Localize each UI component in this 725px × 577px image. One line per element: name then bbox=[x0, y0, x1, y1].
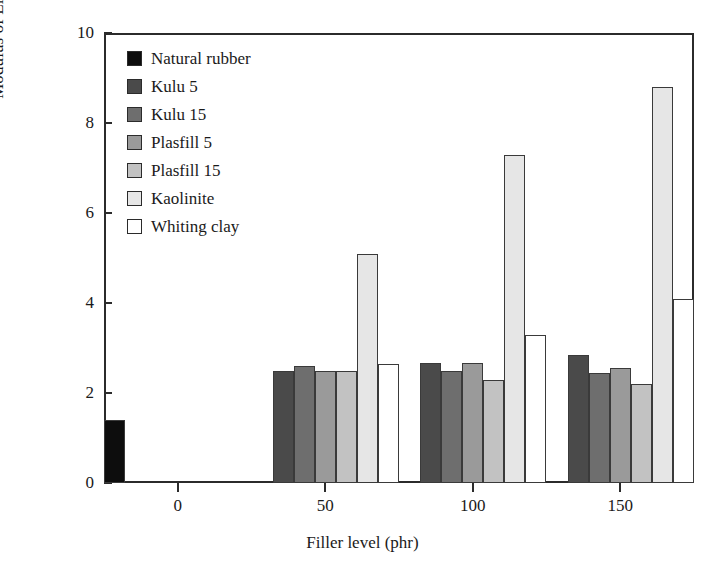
legend-item-label: Kaolinite bbox=[151, 190, 214, 207]
legend-swatch-icon bbox=[127, 107, 142, 122]
bar bbox=[673, 299, 694, 484]
legend-swatch-icon bbox=[127, 79, 142, 94]
y-tick-label: 8 bbox=[52, 114, 94, 131]
legend-swatch-icon bbox=[127, 219, 142, 234]
bar bbox=[273, 371, 294, 484]
bar bbox=[589, 373, 610, 483]
legend-item-label: Kulu 15 bbox=[151, 106, 206, 123]
bar bbox=[336, 371, 357, 484]
legend-swatch-icon bbox=[127, 163, 142, 178]
y-axis-title: Modulus of Elasticity (MPa) bbox=[0, 0, 8, 150]
x-tick-label: 100 bbox=[433, 497, 513, 514]
legend-swatch-icon bbox=[127, 51, 142, 66]
y-tick-label: 10 bbox=[52, 24, 94, 41]
legend-item-label: Plasfill 15 bbox=[151, 162, 220, 179]
legend-item: Kulu 5 bbox=[127, 72, 251, 100]
bar bbox=[462, 363, 483, 483]
x-tick-label: 150 bbox=[580, 497, 660, 514]
bar bbox=[104, 420, 125, 483]
x-tick-mark bbox=[619, 483, 621, 492]
bar bbox=[652, 87, 673, 483]
legend-item: Kaolinite bbox=[127, 184, 251, 212]
bar bbox=[441, 371, 462, 484]
legend-item-label: Plasfill 5 bbox=[151, 134, 212, 151]
y-tick-label: 4 bbox=[52, 294, 94, 311]
bar bbox=[568, 355, 589, 483]
y-tick-label: 2 bbox=[52, 384, 94, 401]
bar bbox=[631, 384, 652, 483]
x-tick-label: 0 bbox=[138, 497, 218, 514]
legend-item-label: Whiting clay bbox=[151, 218, 239, 235]
bar bbox=[315, 371, 336, 484]
chart-figure: Modulus of Elasticity (MPa) 0246810 0501… bbox=[0, 0, 725, 577]
y-tick-label: 6 bbox=[52, 204, 94, 221]
legend-item: Plasfill 15 bbox=[127, 156, 251, 184]
legend-item: Kulu 15 bbox=[127, 100, 251, 128]
bar bbox=[294, 366, 315, 483]
bar bbox=[378, 364, 399, 483]
x-tick-mark bbox=[177, 483, 179, 492]
legend-item-label: Natural rubber bbox=[151, 50, 251, 67]
x-tick-label: 50 bbox=[285, 497, 365, 514]
x-tick-mark bbox=[472, 483, 474, 492]
legend-swatch-icon bbox=[127, 191, 142, 206]
legend-item-label: Kulu 5 bbox=[151, 78, 198, 95]
bar bbox=[483, 380, 504, 484]
legend-swatch-icon bbox=[127, 135, 142, 150]
legend-item: Plasfill 5 bbox=[127, 128, 251, 156]
x-tick-mark bbox=[324, 483, 326, 492]
bar bbox=[357, 254, 378, 484]
legend-item: Natural rubber bbox=[127, 44, 251, 72]
bar bbox=[610, 368, 631, 483]
bar bbox=[525, 335, 546, 484]
bar bbox=[504, 155, 525, 484]
x-axis-title: Filler level (phr) bbox=[0, 533, 725, 553]
chart-legend: Natural rubberKulu 5Kulu 15Plasfill 5Pla… bbox=[127, 44, 251, 240]
y-tick-label: 0 bbox=[52, 474, 94, 491]
legend-item: Whiting clay bbox=[127, 212, 251, 240]
bar bbox=[420, 363, 441, 483]
